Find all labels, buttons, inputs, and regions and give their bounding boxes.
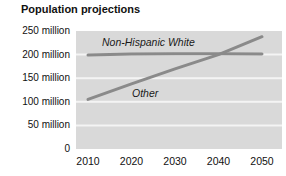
- chart-title: Population projections: [21, 3, 140, 15]
- y-tick-label: 50 million: [0, 119, 70, 131]
- y-tick-label: 200 million: [0, 49, 70, 61]
- chart-canvas: [76, 31, 282, 149]
- y-tick-label: 150 million: [0, 72, 70, 84]
- series-label-other: Other: [132, 87, 158, 99]
- x-tick-label: 2020: [112, 155, 152, 167]
- x-tick-label: 2010: [68, 155, 108, 167]
- x-tick-label: 2030: [155, 155, 195, 167]
- x-tick-label: 2040: [199, 155, 239, 167]
- y-tick-label: 100 million: [0, 96, 70, 108]
- population-projections-chart: Population projections 250 million200 mi…: [0, 0, 286, 176]
- x-tick-label: 2050: [242, 155, 282, 167]
- plot-area: [76, 31, 282, 149]
- series-label-non-hispanic-white: Non-Hispanic White: [102, 36, 195, 48]
- y-tick-label: 0: [0, 143, 70, 155]
- series-line-non-hispanic-white: [88, 54, 262, 55]
- y-tick-label: 250 million: [0, 25, 70, 37]
